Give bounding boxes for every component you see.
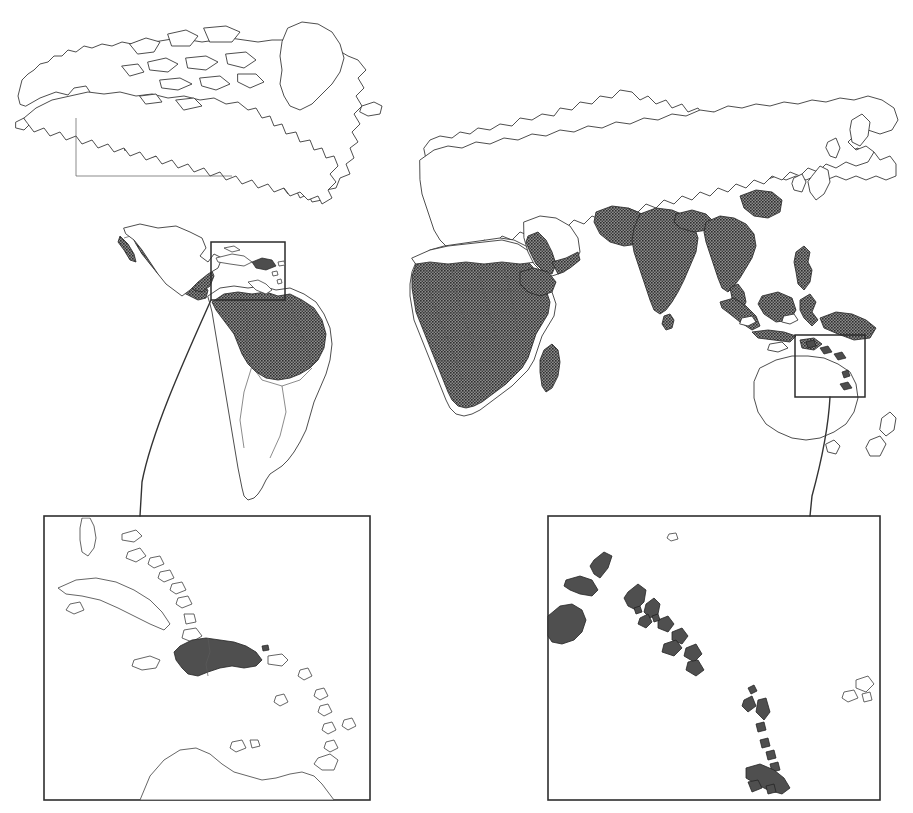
lesser-antilles-8: [230, 740, 246, 752]
solomon-island-7: [686, 660, 704, 676]
bahamas-island-5: [170, 582, 186, 594]
java-endemic: [752, 330, 796, 342]
nauru-islet: [667, 533, 678, 541]
tasmania-coastline: [826, 440, 840, 454]
lesser-antilles-6: [342, 718, 356, 730]
santa-cruz-island-2: [742, 696, 756, 712]
santa-cruz-islet: [756, 722, 766, 732]
melanesia-inset: [548, 516, 880, 800]
new-ireland-endemic: [590, 552, 612, 578]
trinidad-coastline: [314, 754, 338, 770]
jamaica-coastline: [132, 656, 160, 670]
bahamas-island-2: [126, 548, 146, 562]
bahamas-island-3: [148, 556, 164, 568]
vanuatu-island-2: [766, 750, 776, 760]
bougainville-endemic: [624, 584, 646, 610]
lesser-antilles-2: [314, 688, 328, 700]
solomon-island-3: [658, 616, 674, 632]
new-zealand-south-coastline: [866, 436, 886, 456]
sahara-unshaded-region: [412, 240, 536, 264]
sulawesi-endemic: [800, 294, 818, 326]
southern-china-endemic: [740, 190, 782, 218]
sri-lanka-endemic: [662, 314, 674, 330]
fiji-island-2: [842, 690, 858, 702]
south-america-north-coast: [140, 748, 334, 800]
bahamas-island-6: [176, 596, 192, 608]
solomon-islet-small-2: [652, 614, 660, 622]
isla-juventud: [66, 602, 84, 614]
solomon-islet-small-1: [634, 606, 642, 614]
caribbean-inset: [44, 516, 370, 800]
philippines-endemic: [794, 246, 812, 290]
distribution-map-figure: [0, 0, 913, 813]
santa-cruz-island-3: [756, 698, 770, 720]
mona-islet: [262, 645, 269, 651]
new-zealand-coastline: [880, 412, 896, 436]
madagascar-endemic: [540, 344, 560, 392]
vanuatu-island-6: [766, 784, 776, 794]
papua-new-guinea-endemic: [820, 312, 876, 340]
map-canvas: [0, 0, 913, 813]
afro-eurasia-panel: [410, 90, 898, 516]
fiji-islet: [862, 692, 872, 702]
florida-coastline: [80, 518, 96, 556]
vanuatu-island-1: [760, 738, 770, 748]
hispaniola-endemic: [174, 638, 262, 676]
puerto-rico-coastline: [268, 654, 288, 666]
lesser-antilles-4: [322, 722, 336, 734]
bahamas-island-4: [158, 570, 174, 582]
lesser-antilles-5: [324, 740, 338, 752]
caribbean-leader-line: [140, 300, 211, 516]
iceland-coastline: [360, 102, 382, 116]
myanmar-thailand-indochina-endemic: [704, 216, 756, 292]
bahamas-island-7: [184, 614, 196, 624]
new-guinea-east-endemic: [548, 604, 586, 644]
new-britain-endemic: [564, 576, 598, 596]
bahamas-island-1: [122, 530, 142, 542]
lesser-antilles-7: [274, 694, 288, 706]
lesser-antilles-9: [250, 740, 260, 748]
fiji-island-1: [856, 676, 874, 692]
lesser-antilles-3: [318, 704, 332, 716]
australia-coastline: [754, 356, 858, 440]
santa-cruz-island-1: [748, 685, 757, 694]
lesser-antilles-1: [298, 668, 312, 680]
americas-panel: [16, 22, 382, 516]
solomon-island-6: [684, 644, 702, 662]
sumatra-endemic: [720, 298, 760, 330]
